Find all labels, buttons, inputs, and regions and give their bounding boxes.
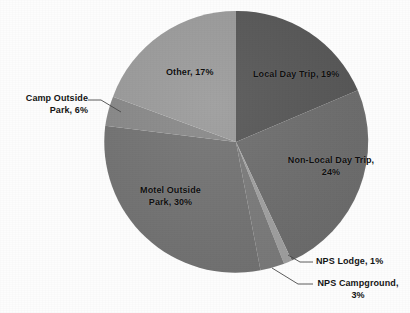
slice-label-nps-campground: NPS Campground, 3% <box>310 278 406 301</box>
slice-label-camp-outside-park: Camp Outside Park, 6% <box>6 93 88 116</box>
leader-line-nps-campground <box>272 268 313 284</box>
slice-label-other: Other, 17% <box>166 67 214 79</box>
slice-label-camp-outside-park-line2: Park, 6% <box>6 105 88 117</box>
pie-shading-overlay <box>105 11 367 273</box>
slice-label-camp-outside-park-line1: Camp Outside <box>6 93 88 105</box>
pie-chart-figure: Local Day Trip, 19% Non-Local Day Trip, … <box>0 0 410 313</box>
slice-label-nps-campground-line1: NPS Campground, <box>310 278 406 290</box>
slice-label-motel-outside-park-line2: Park, 30% <box>113 197 228 209</box>
slice-label-local-day-trip: Local Day Trip, 19% <box>253 69 339 81</box>
slice-label-motel-outside-park: Motel Outside Park, 30% <box>113 185 228 208</box>
slice-label-non-local-day-trip-line1: Non-Local Day Trip, <box>271 155 391 167</box>
slice-label-nps-campground-line2: 3% <box>310 290 406 302</box>
slice-label-nps-lodge: NPS Lodge, 1% <box>316 256 383 268</box>
slice-label-non-local-day-trip: Non-Local Day Trip, 24% <box>271 155 391 178</box>
slice-label-non-local-day-trip-line2: 24% <box>271 167 391 179</box>
slice-label-motel-outside-park-line1: Motel Outside <box>113 185 228 197</box>
